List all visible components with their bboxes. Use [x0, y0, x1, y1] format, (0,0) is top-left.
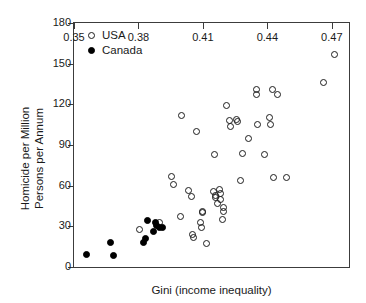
y-axis-title-line-1: Homicide per Million: [19, 64, 33, 254]
data-points-layer: [74, 23, 349, 267]
legend-label-usa: USA: [102, 28, 126, 43]
x-axis-title: Gini (income inequality): [73, 284, 350, 297]
scatter-chart-figure: Homicide per Million Persons per Annum G…: [0, 0, 366, 303]
plot-area: 0306090120150180 0.350.380.410.440.47: [73, 22, 350, 268]
data-point-usa: [217, 196, 224, 203]
data-point-canada: [159, 224, 166, 231]
data-point-usa: [188, 193, 195, 200]
data-point-usa: [170, 181, 177, 188]
data-point-usa: [198, 224, 205, 231]
data-point-usa: [211, 151, 218, 158]
data-point-usa: [203, 240, 210, 247]
y-axis-title-line-2: Persons per Annum: [32, 64, 46, 254]
legend-label-canada: Canada: [102, 43, 142, 58]
legend-item-canada: Canada: [88, 43, 142, 58]
data-point-usa: [227, 123, 234, 130]
data-point-usa: [136, 226, 143, 233]
filled-circle-icon: [88, 47, 95, 54]
data-point-usa: [237, 177, 244, 184]
y-tick-label: 30: [59, 219, 71, 232]
data-point-usa: [223, 102, 230, 109]
data-point-usa: [270, 174, 277, 181]
data-point-canada: [107, 239, 114, 246]
y-tick-label: 150: [53, 57, 71, 70]
data-point-canada: [144, 217, 151, 224]
legend-item-usa: USA: [88, 28, 142, 43]
data-point-canada: [110, 252, 117, 259]
open-circle-icon: [88, 32, 95, 39]
data-point-usa: [320, 79, 327, 86]
data-point-canada: [83, 251, 90, 258]
data-point-usa: [219, 216, 226, 223]
data-point-usa: [193, 128, 200, 135]
data-point-usa: [254, 121, 261, 128]
data-point-usa: [274, 91, 281, 98]
data-point-usa: [331, 51, 338, 58]
data-point-usa: [253, 91, 260, 98]
data-point-usa: [199, 209, 206, 216]
data-point-usa: [267, 121, 274, 128]
data-point-usa: [283, 174, 290, 181]
data-point-canada: [142, 235, 149, 242]
data-point-usa: [190, 234, 197, 241]
y-tick-label: 120: [53, 97, 71, 110]
y-axis-title: Homicide per Million Persons per Annum: [19, 64, 46, 254]
data-point-usa: [245, 135, 252, 142]
y-tick-label: 180: [53, 16, 71, 29]
y-tick-label: 90: [59, 138, 71, 151]
data-point-usa: [177, 213, 184, 220]
y-tick-label: 0: [65, 260, 71, 273]
data-point-usa: [220, 208, 227, 215]
data-point-usa: [234, 118, 241, 125]
legend: USA Canada: [88, 28, 142, 58]
data-point-usa: [261, 151, 268, 158]
data-point-usa: [239, 150, 246, 157]
data-point-usa: [168, 173, 175, 180]
data-point-usa: [178, 112, 185, 119]
y-tick-label: 60: [59, 179, 71, 192]
